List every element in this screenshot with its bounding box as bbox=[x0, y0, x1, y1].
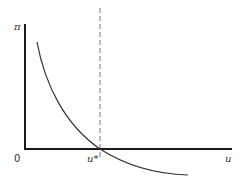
pi-curve bbox=[37, 42, 188, 175]
u-star-label: u* bbox=[87, 153, 98, 164]
x-axis-label: u bbox=[225, 153, 231, 164]
diagram: π 0 u* u bbox=[0, 0, 242, 191]
y-axis-label: π bbox=[13, 21, 21, 32]
origin-label: 0 bbox=[14, 153, 20, 164]
